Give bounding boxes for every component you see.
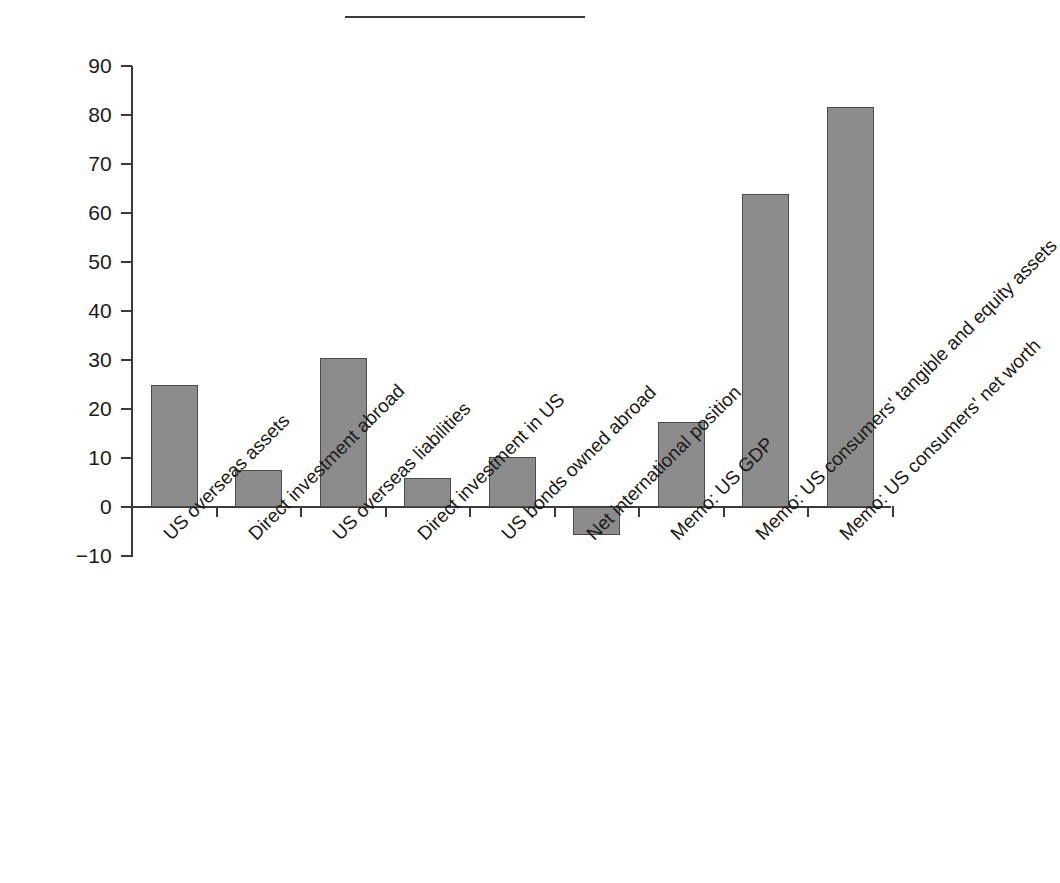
y-axis-tick xyxy=(121,310,132,312)
x-axis-tick xyxy=(723,506,725,517)
x-axis-category-label: Net international position xyxy=(583,382,744,543)
y-axis-tick-label: 90 xyxy=(88,55,112,76)
y-axis-tick xyxy=(121,261,132,263)
x-axis-tick xyxy=(554,506,556,517)
y-axis-tick-label: 50 xyxy=(88,251,112,272)
y-axis-tick xyxy=(121,408,132,410)
x-axis-tick xyxy=(807,506,809,517)
y-axis-tick xyxy=(121,555,132,557)
y-axis-tick-label: 20 xyxy=(88,398,112,419)
y-axis-tick-label: 30 xyxy=(88,349,112,370)
y-axis-tick xyxy=(121,65,132,67)
y-axis-tick xyxy=(121,163,132,165)
y-axis-tick-label: 80 xyxy=(88,104,112,125)
bar xyxy=(151,385,198,508)
y-axis-tick xyxy=(121,212,132,214)
x-axis-tick xyxy=(638,506,640,517)
x-axis-category-label: Direct investment in US xyxy=(414,390,568,544)
y-axis-tick-label: 0 xyxy=(100,496,112,517)
y-axis-tick-label: 70 xyxy=(88,153,112,174)
x-axis-tick xyxy=(469,506,471,517)
y-axis-tick-label: 10 xyxy=(88,447,112,468)
y-axis-tick-label: −10 xyxy=(76,545,112,566)
x-axis-tick xyxy=(216,506,218,517)
y-axis-tick xyxy=(121,457,132,459)
y-axis-tick xyxy=(121,359,132,361)
y-axis-tick xyxy=(121,114,132,116)
x-axis-category-label: Memo: US consumers' tangible and equity … xyxy=(752,235,1060,543)
x-axis-tick xyxy=(892,506,894,517)
y-axis-tick-label: 60 xyxy=(88,202,112,223)
y-axis-tick-label: 40 xyxy=(88,300,112,321)
x-axis-tick xyxy=(300,506,302,517)
x-axis-tick xyxy=(385,506,387,517)
x-axis-tick xyxy=(131,506,133,517)
